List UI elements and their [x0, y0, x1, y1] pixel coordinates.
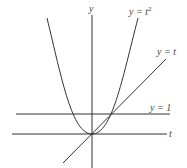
- function-plot: y t y = t2 y = t y = 1: [0, 0, 187, 168]
- y-equals-t-label: y = t: [156, 46, 176, 57]
- t-axis-label: t: [169, 128, 172, 139]
- parabola-label-lhs: y =: [128, 6, 145, 17]
- parabola-label-exponent: 2: [148, 5, 152, 13]
- parabola-label: y = t2: [128, 5, 152, 17]
- y-equals-1-label: y = 1: [149, 102, 171, 113]
- y-axis-label: y: [88, 3, 94, 14]
